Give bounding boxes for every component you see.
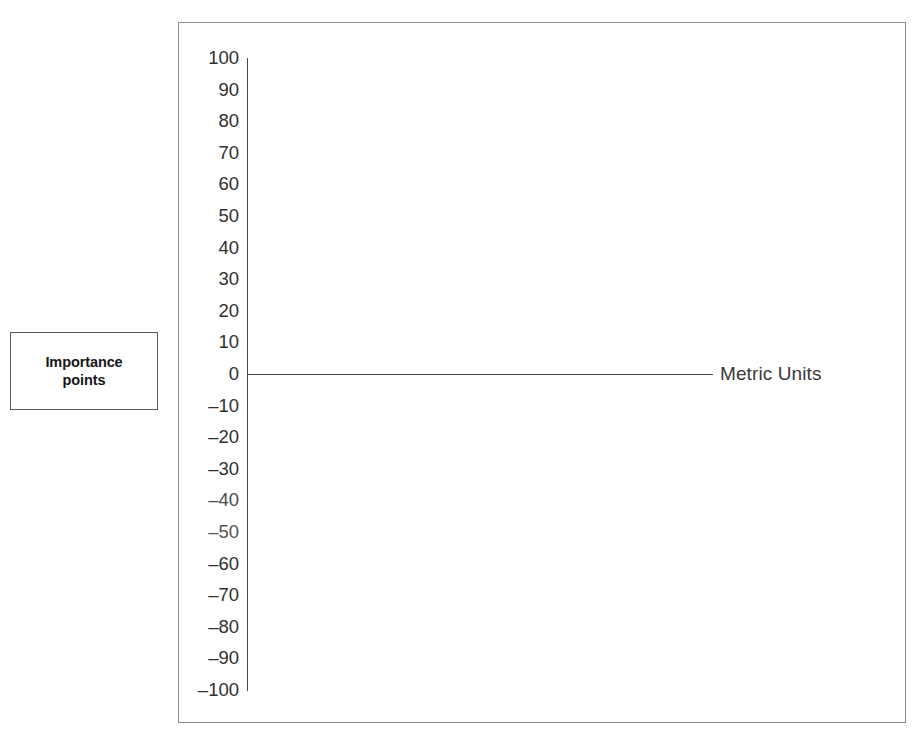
- y-tick-label-neg50: –50: [179, 523, 239, 542]
- y-tick-label-40: 40: [179, 238, 239, 257]
- y-axis-title-line-1: Importance: [45, 354, 122, 370]
- y-tick-label-30: 30: [179, 270, 239, 289]
- y-tick-label-0: 0: [179, 365, 239, 384]
- y-tick-label-neg80: –80: [179, 618, 239, 637]
- y-tick-label-60: 60: [179, 175, 239, 194]
- plot-area: 1009080706050403020100–10–20–30–40–50–60…: [179, 23, 905, 722]
- y-tick-label-70: 70: [179, 144, 239, 163]
- y-axis-title-text: Importance points: [45, 353, 122, 389]
- y-tick-label-neg20: –20: [179, 428, 239, 447]
- chart-frame: 1009080706050403020100–10–20–30–40–50–60…: [178, 22, 906, 723]
- y-tick-label-20: 20: [179, 302, 239, 321]
- y-tick-label-100: 100: [179, 49, 239, 68]
- y-tick-label-neg10: –10: [179, 396, 239, 415]
- y-axis-tick-labels: 1009080706050403020100–10–20–30–40–50–60…: [179, 23, 239, 722]
- y-tick-label-80: 80: [179, 112, 239, 131]
- y-tick-label-neg60: –60: [179, 554, 239, 573]
- y-tick-label-10: 10: [179, 333, 239, 352]
- y-tick-label-neg100: –100: [179, 681, 239, 700]
- y-tick-label-90: 90: [179, 80, 239, 99]
- series-label-metric-units: Metric Units: [720, 363, 822, 385]
- zero-baseline: [247, 374, 713, 375]
- y-axis-title-box: Importance points: [10, 332, 158, 410]
- y-tick-label-neg40: –40: [179, 491, 239, 510]
- y-tick-label-50: 50: [179, 207, 239, 226]
- y-tick-label-neg70: –70: [179, 586, 239, 605]
- y-tick-label-neg30: –30: [179, 460, 239, 479]
- y-axis-title-line-2: points: [63, 372, 106, 388]
- chart-page: Importance points 1009080706050403020100…: [0, 0, 919, 736]
- y-tick-label-neg90: –90: [179, 649, 239, 668]
